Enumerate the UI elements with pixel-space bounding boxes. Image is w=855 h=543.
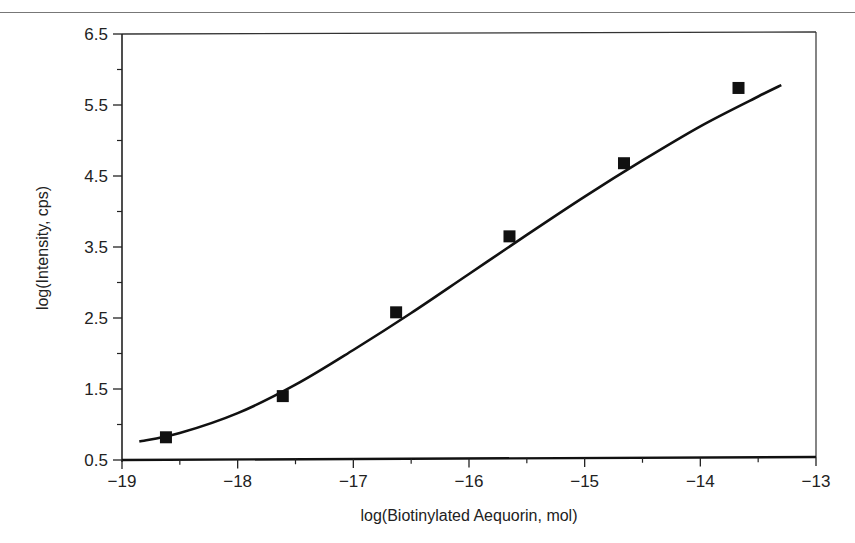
y-tick-label: 5.5 <box>84 96 108 115</box>
x-tick-label: −13 <box>802 472 831 491</box>
y-axis-title: log(Intensity, cps) <box>34 186 51 310</box>
data-point-marker <box>618 157 630 169</box>
y-tick-label: 6.5 <box>84 25 108 44</box>
data-point-marker <box>160 431 172 443</box>
data-point-marker <box>390 306 402 318</box>
data-points <box>160 82 745 443</box>
fit-curve <box>139 85 781 441</box>
x-tick-label: −15 <box>570 472 599 491</box>
dose-response-chart: −19−18−17−16−15−14−13 0.51.52.53.54.55.5… <box>0 0 855 543</box>
data-point-marker <box>503 230 515 242</box>
x-tick-label: −18 <box>223 472 252 491</box>
y-tick-label: 3.5 <box>84 238 108 257</box>
y-tick-label: 4.5 <box>84 167 108 186</box>
x-tick-label: −14 <box>686 472 715 491</box>
plot-frame <box>122 32 816 462</box>
data-point-marker <box>733 82 745 94</box>
y-tick-label: 2.5 <box>84 309 108 328</box>
y-tick-label: 1.5 <box>84 380 108 399</box>
y-tick-label: 0.5 <box>84 451 108 470</box>
x-tick-label: −19 <box>108 472 137 491</box>
x-tick-label: −17 <box>339 472 368 491</box>
x-axis-title: log(Biotinylated Aequorin, mol) <box>360 507 577 524</box>
x-tick-label: −16 <box>455 472 484 491</box>
y-axis: 0.51.52.53.54.55.56.5 <box>84 25 122 470</box>
data-point-marker <box>277 390 289 402</box>
x-axis: −19−18−17−16−15−14−13 <box>108 457 831 491</box>
